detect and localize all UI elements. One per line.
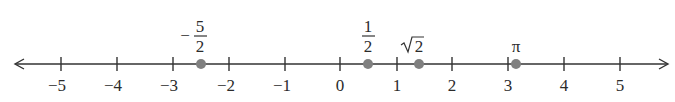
point-sqrt-two bbox=[414, 59, 424, 69]
numerator: 1 bbox=[364, 17, 373, 36]
tick-label: 3 bbox=[504, 76, 513, 95]
tick-label: −2 bbox=[217, 76, 235, 95]
radicand: 2 bbox=[415, 37, 424, 56]
tick-label: −3 bbox=[160, 76, 178, 95]
label-pi: π bbox=[512, 37, 521, 56]
number-line-diagram: −5 −4 −3 −2 −1 0 1 2 3 4 5 − 5 2 1 2 2 π bbox=[0, 0, 675, 102]
point-negative-five-halves bbox=[196, 59, 206, 69]
tick-labels: −5 −4 −3 −2 −1 0 1 2 3 4 5 bbox=[48, 76, 624, 95]
minus-sign: − bbox=[180, 26, 190, 45]
tick-label: 4 bbox=[560, 76, 569, 95]
numerator: 5 bbox=[196, 17, 205, 36]
tick-label: 1 bbox=[393, 76, 402, 95]
tick-label: 5 bbox=[616, 76, 625, 95]
tick-label: −4 bbox=[104, 76, 123, 95]
tick-label: −1 bbox=[273, 76, 291, 95]
label-negative-five-halves: − 5 2 bbox=[180, 17, 207, 56]
tick-label: 2 bbox=[448, 76, 457, 95]
point-one-half bbox=[363, 59, 373, 69]
label-sqrt-two: 2 bbox=[401, 37, 424, 56]
tick-label: −5 bbox=[48, 76, 66, 95]
point-pi bbox=[511, 59, 521, 69]
denominator: 2 bbox=[364, 37, 373, 56]
denominator: 2 bbox=[196, 37, 205, 56]
tick-label: 0 bbox=[336, 76, 345, 95]
label-one-half: 1 2 bbox=[362, 17, 375, 56]
